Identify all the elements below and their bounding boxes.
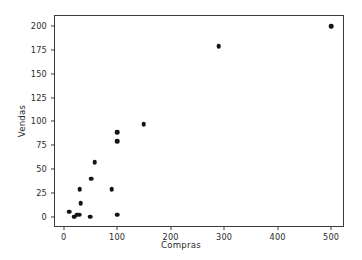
x-axis-label: Compras	[0, 240, 362, 250]
data-point	[217, 44, 222, 49]
data-point	[78, 201, 83, 206]
data-point	[329, 24, 334, 29]
data-point	[115, 212, 120, 217]
y-axis-label: Vendas	[17, 105, 27, 137]
data-point	[77, 187, 82, 192]
x-tick-label: 200	[163, 232, 179, 242]
x-tick-mark	[331, 227, 332, 230]
y-tick-mark	[51, 73, 54, 74]
y-tick-mark	[51, 216, 54, 217]
y-tick-mark	[51, 97, 54, 98]
scatter-chart-figure: Compras Vendas 0100200300400500025507510…	[0, 0, 362, 260]
x-tick-label: 0	[61, 232, 66, 242]
x-tick-mark	[170, 227, 171, 230]
y-tick-mark	[51, 145, 54, 146]
x-tick-mark	[63, 227, 64, 230]
data-point	[67, 209, 72, 214]
y-tick-mark	[51, 192, 54, 193]
x-tick-mark	[224, 227, 225, 230]
y-tick-mark	[51, 169, 54, 170]
data-point	[77, 212, 82, 217]
y-tick-label: 175	[31, 45, 47, 55]
y-tick-label: 75	[36, 140, 47, 150]
y-tick-label: 100	[31, 116, 47, 126]
x-tick-label: 300	[216, 232, 232, 242]
x-tick-label: 100	[109, 232, 125, 242]
x-tick-label: 400	[270, 232, 286, 242]
y-tick-mark	[51, 121, 54, 122]
x-tick-mark	[117, 227, 118, 230]
y-tick-label: 200	[31, 21, 47, 31]
x-tick-label: 500	[323, 232, 339, 242]
y-tick-label: 150	[31, 69, 47, 79]
data-point	[92, 160, 97, 165]
y-tick-label: 125	[31, 93, 47, 103]
data-point	[115, 130, 120, 135]
data-point	[115, 139, 120, 144]
y-tick-mark	[51, 50, 54, 51]
y-tick-label: 50	[36, 164, 47, 174]
data-point	[88, 214, 93, 219]
plot-area	[54, 15, 344, 227]
data-point	[142, 122, 147, 127]
y-tick-label: 0	[42, 212, 47, 222]
y-tick-mark	[51, 26, 54, 27]
x-tick-mark	[277, 227, 278, 230]
y-tick-label: 25	[36, 188, 47, 198]
data-point	[109, 187, 114, 192]
data-point	[89, 176, 94, 181]
